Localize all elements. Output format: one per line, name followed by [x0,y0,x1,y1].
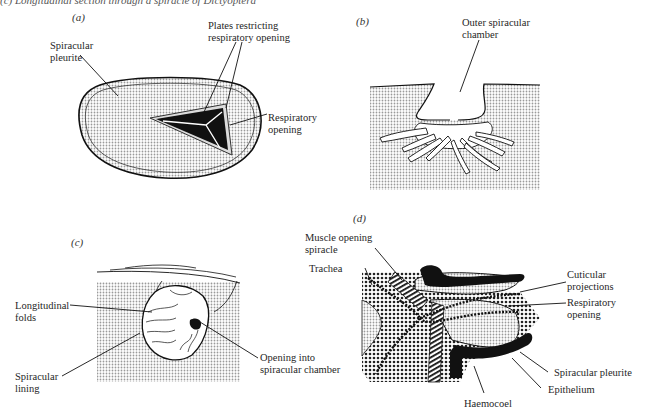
panel-c-label: (c) [71,236,83,248]
label-longitudinal-folds: Longitudinal folds [15,300,69,324]
label-spiracular-lining: Spiracular lining [15,371,58,395]
panel-d-figure [362,248,566,393]
panel-b-label: (b) [356,15,369,27]
label-opening-into-chamber: Opening into spiracular chamber [260,352,340,376]
label-cuticular-projections: Cuticular projections [567,269,614,293]
label-spiracular-pleurite-a: Spiracular pleurite [50,40,93,64]
label-outer-spiracular-chamber: Outer spiracular chamber [462,17,530,41]
label-trachea: Trachea [309,263,342,275]
panel-a-figure [79,42,267,178]
label-haemocoel: Haemocoel [464,398,512,410]
label-epithelium: Epithelium [548,384,595,396]
panel-d-label: (d) [353,212,366,224]
label-spiracular-pleurite-d: Spiracular pleurite [554,367,632,379]
label-muscle-opening-spiracle: Muscle opening spiracle [305,232,372,256]
label-respiratory-opening-d: Respiratory opening [567,297,616,321]
label-respiratory-opening-a: Respiratory opening [268,112,317,136]
label-plates-restricting: Plates restricting respiratory opening [208,20,290,44]
panel-a-label: (a) [72,11,85,23]
panel-b-figure [370,40,540,190]
panel-c-figure [62,265,258,382]
